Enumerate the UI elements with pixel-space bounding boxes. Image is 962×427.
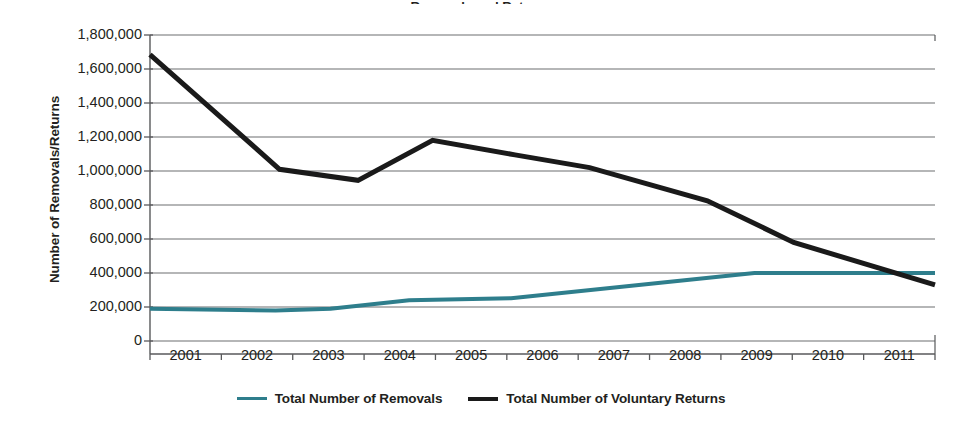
x-tick-label: 2010: [793, 347, 863, 363]
chart-legend: Total Number of RemovalsTotal Number of …: [0, 391, 962, 406]
x-tick-label: 2005: [436, 347, 506, 363]
y-tick-label: 400,000: [22, 264, 142, 280]
plot-svg: [150, 35, 935, 341]
legend-line-swatch: [468, 397, 498, 401]
legend-line-swatch: [237, 397, 267, 400]
x-tick-label: 2009: [722, 347, 792, 363]
x-tick-label: 2011: [864, 347, 934, 363]
y-tick-label: 600,000: [22, 230, 142, 246]
legend-label: Total Number of Removals: [275, 391, 443, 406]
x-tick-label: 2004: [365, 347, 435, 363]
y-tick-label: 200,000: [22, 298, 142, 314]
legend-label: Total Number of Voluntary Returns: [506, 391, 725, 406]
legend-entry[interactable]: Total Number of Removals: [237, 391, 443, 406]
y-tick-label: 1,600,000: [22, 60, 142, 76]
x-tick-label: 2001: [151, 347, 221, 363]
x-axis-tick-labels: 2001200220032004200520062007200820092010…: [150, 347, 935, 371]
series-line-1: [150, 55, 935, 285]
chart-figure: Removals and Returns Number of Removals/…: [0, 0, 962, 427]
x-tick-label: 2002: [222, 347, 292, 363]
x-tick-label: 2008: [650, 347, 720, 363]
series-line-0: [150, 273, 935, 310]
y-tick-label: 800,000: [22, 196, 142, 212]
chart-title-sliver: Removals and Returns: [0, 0, 962, 4]
plot-area: [150, 35, 935, 341]
legend-entry[interactable]: Total Number of Voluntary Returns: [468, 391, 725, 406]
y-axis-tick-labels: 0200,000400,000600,000800,0001,000,0001,…: [18, 0, 142, 427]
y-tick-label: 1,000,000: [22, 162, 142, 178]
y-tick-label: 1,400,000: [22, 94, 142, 110]
x-tick-label: 2007: [579, 347, 649, 363]
y-tick-label: 1,800,000: [22, 26, 142, 42]
y-tick-label: 0: [22, 332, 142, 348]
x-tick-label: 2006: [508, 347, 578, 363]
y-tick-label: 1,200,000: [22, 128, 142, 144]
x-tick-label: 2003: [293, 347, 363, 363]
